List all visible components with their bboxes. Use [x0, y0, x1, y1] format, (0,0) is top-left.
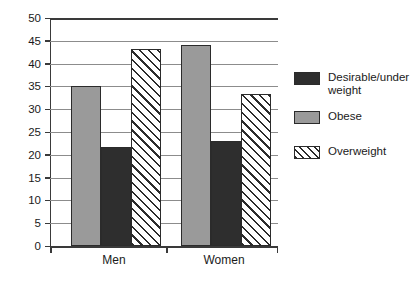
bar-women-overweight[interactable]: [241, 94, 271, 246]
x-axis-tick-start: [50, 246, 52, 253]
bar-women-obese[interactable]: [181, 45, 211, 246]
legend: Desirable/under weight Obese Overweight: [294, 71, 406, 172]
y-tick-label: 40: [8, 58, 41, 70]
y-tick-label: 50: [8, 12, 41, 24]
legend-label: Desirable/under weight: [328, 71, 406, 97]
x-axis-tick-mid: [166, 246, 168, 253]
y-tick-label: 35: [8, 80, 41, 92]
x-axis-line: [50, 246, 278, 248]
y-tick-label: 15: [8, 172, 41, 184]
bar-chart: 50 45 40 35 30: [0, 0, 410, 288]
bar-men-obese[interactable]: [71, 86, 101, 246]
y-tick-label: 25: [8, 126, 41, 138]
y-tick-label: 20: [8, 149, 41, 161]
legend-swatch-icon: [294, 111, 320, 124]
y-tick-label: 5: [8, 217, 41, 229]
bar-women-desirable-under[interactable]: [211, 141, 241, 246]
plot-area: 50 45 40 35 30: [50, 18, 278, 246]
legend-label: Obese: [328, 110, 362, 123]
y-tick-label: 30: [8, 103, 41, 115]
y-tick-label: 10: [8, 194, 41, 206]
x-axis-tick-end: [277, 246, 279, 253]
legend-item-desirable-under-weight[interactable]: Desirable/under weight: [294, 71, 406, 97]
x-category-label-women: Women: [166, 253, 282, 267]
legend-item-overweight[interactable]: Overweight: [294, 145, 406, 159]
y-tick-label: 0: [8, 240, 41, 252]
legend-label: Overweight: [328, 145, 386, 158]
y-tick-label: 45: [8, 35, 41, 47]
legend-item-obese[interactable]: Obese: [294, 110, 406, 124]
x-category-label-men: Men: [56, 253, 172, 267]
bars-layer: [50, 18, 278, 246]
legend-swatch-icon: [294, 146, 320, 159]
bar-men-overweight[interactable]: [131, 49, 161, 246]
legend-swatch-icon: [294, 72, 320, 85]
bar-men-desirable-under[interactable]: [101, 147, 131, 246]
